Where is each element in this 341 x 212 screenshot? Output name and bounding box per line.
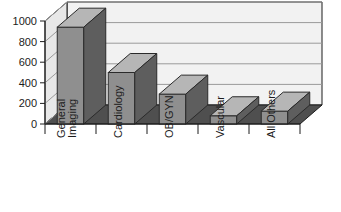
y-axis-tick-label: 1000	[13, 15, 37, 27]
y-axis-tick-label: 400	[19, 77, 37, 89]
y-axis-tick-label: 0	[31, 118, 37, 130]
chart-canvas: 02004006008001000GeneralImagingCardiolog…	[0, 0, 341, 212]
x-axis-category-label: All Others	[265, 89, 277, 138]
y-axis-tick-label: 600	[19, 56, 37, 68]
bar-chart: 02004006008001000GeneralImagingCardiolog…	[0, 0, 341, 212]
x-axis-category-label: Cardiology	[112, 85, 124, 138]
x-axis-category-label: Vascular	[214, 96, 226, 138]
x-axis-category-label: OB/GYN	[163, 95, 175, 138]
y-axis-tick-label: 800	[19, 36, 37, 48]
y-axis-tick-label: 200	[19, 97, 37, 109]
x-axis-category-label: Imaging	[66, 99, 78, 138]
bar-side-face	[84, 8, 106, 124]
